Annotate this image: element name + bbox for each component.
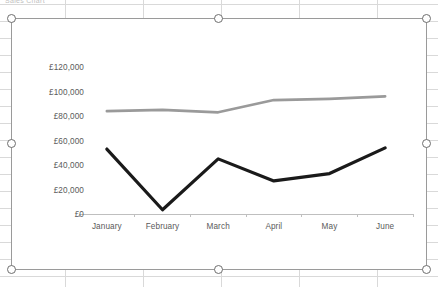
resize-handle-bottom-right[interactable] xyxy=(422,265,431,274)
x-tick-label: June xyxy=(376,222,394,231)
x-tick-label: April xyxy=(265,222,282,231)
resize-handle-middle-left[interactable] xyxy=(7,139,16,148)
clipped-sheet-text: Sales Chart xyxy=(5,0,45,4)
resize-handle-middle-right[interactable] xyxy=(422,139,431,148)
x-tick-label: May xyxy=(322,222,338,231)
resize-handle-bottom-left[interactable] xyxy=(7,265,16,274)
x-axis-tick-labels: JanuaryFebruaryMarchAprilMayJune xyxy=(12,19,428,271)
x-tick-label: January xyxy=(92,222,122,231)
chart-object[interactable]: £120,000£100,000£80,000£60,000£40,000£20… xyxy=(11,18,427,270)
x-tick-label: March xyxy=(207,222,230,231)
resize-handle-top-left[interactable] xyxy=(7,14,16,23)
x-tick-label: February xyxy=(146,222,180,231)
resize-handle-top-right[interactable] xyxy=(422,14,431,23)
resize-handle-top-center[interactable] xyxy=(214,14,223,23)
resize-handle-bottom-center[interactable] xyxy=(214,265,223,274)
